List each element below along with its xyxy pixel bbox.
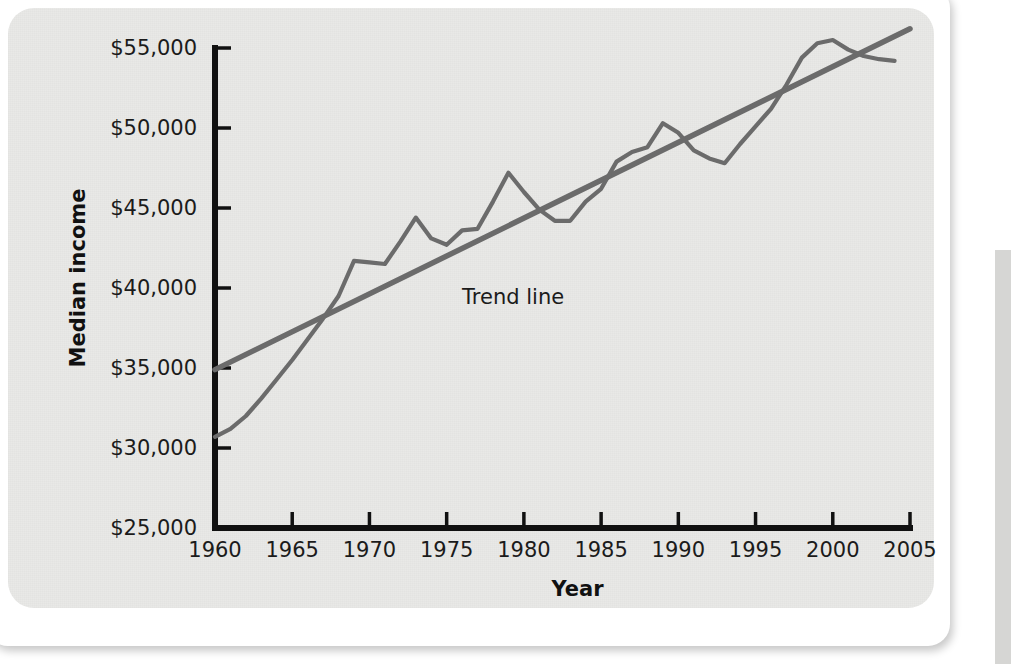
x-axis-tick-label: 1990 xyxy=(652,538,705,562)
y-axis-tick-labels: $25,000$30,000$35,000$40,000$45,000$50,0… xyxy=(110,36,197,540)
x-axis-tick-label: 1965 xyxy=(265,538,318,562)
median-income-series xyxy=(215,40,895,437)
x-axis-tick-label: 1975 xyxy=(420,538,473,562)
y-axis-tick-label: $55,000 xyxy=(110,36,197,60)
y-axis-tick-label: $50,000 xyxy=(110,116,197,140)
x-axis-tick-label: 1970 xyxy=(343,538,396,562)
trend-line-series xyxy=(215,29,910,370)
y-axis-tick-label: $40,000 xyxy=(110,276,197,300)
y-axis-tick-label: $30,000 xyxy=(110,436,197,460)
page-root: $25,000$30,000$35,000$40,000$45,000$50,0… xyxy=(0,0,1011,664)
x-axis-tick-label: 2000 xyxy=(806,538,859,562)
y-axis-tick-label: $25,000 xyxy=(110,516,197,540)
x-axis-tick-label: 2005 xyxy=(883,538,936,562)
x-axis-title: Year xyxy=(550,577,604,601)
x-axis-tick-label: 1980 xyxy=(497,538,550,562)
x-axis-tick-label: 1985 xyxy=(574,538,627,562)
x-axis-tick-label: 1960 xyxy=(188,538,241,562)
y-axis-tick-label: $45,000 xyxy=(110,196,197,220)
line-chart: $25,000$30,000$35,000$40,000$45,000$50,0… xyxy=(0,0,1011,664)
trend-line-annotation: Trend line xyxy=(461,285,564,309)
x-axis-tick-labels: 1960196519701975198019851990199520002005 xyxy=(188,538,936,562)
y-axis-title: Median income xyxy=(66,189,90,368)
x-axis-tick-label: 1995 xyxy=(729,538,782,562)
y-axis-tick-label: $35,000 xyxy=(110,356,197,380)
